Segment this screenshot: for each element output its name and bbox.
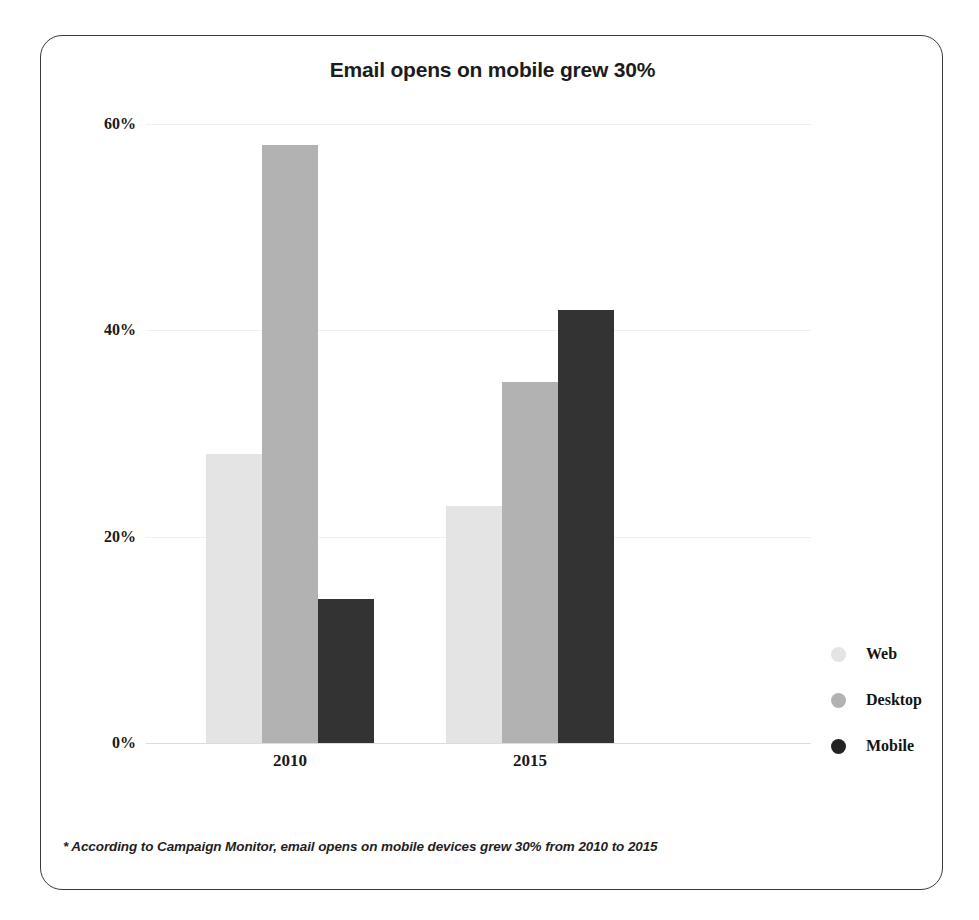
- x-tick-label-2015: 2015: [446, 751, 614, 771]
- bar-2015-desktop[interactable]: [502, 382, 558, 743]
- bar-2010-desktop[interactable]: [262, 145, 318, 743]
- circle-dot-icon: [831, 739, 846, 754]
- bar-2015-web[interactable]: [446, 506, 502, 743]
- bar-group-2010: [206, 124, 374, 743]
- legend-label: Mobile: [866, 737, 914, 755]
- legend-item-web[interactable]: Web: [831, 631, 961, 677]
- legend-item-mobile[interactable]: Mobile: [831, 723, 961, 769]
- plot-area: 0%20%40%60% 20102015: [146, 124, 811, 743]
- y-tick-label: 40%: [74, 321, 136, 339]
- chart-card: Email opens on mobile grew 30% 0%20%40%6…: [40, 35, 943, 890]
- bar-2010-web[interactable]: [206, 454, 262, 743]
- chart-page: Email opens on mobile grew 30% 0%20%40%6…: [0, 0, 979, 920]
- y-tick-label: 20%: [74, 528, 136, 546]
- bar-2010-mobile[interactable]: [318, 599, 374, 743]
- legend-label: Desktop: [866, 691, 922, 709]
- bar-2015-mobile[interactable]: [558, 310, 614, 743]
- y-tick-label: 0%: [74, 734, 136, 752]
- chart-footnote: * According to Campaign Monitor, email o…: [63, 839, 658, 854]
- circle-dot-icon: [831, 647, 846, 662]
- x-tick-label-2010: 2010: [206, 751, 374, 771]
- chart-legend: WebDesktopMobile: [831, 631, 961, 769]
- bar-group-2015: [446, 124, 614, 743]
- legend-label: Web: [866, 645, 897, 663]
- legend-item-desktop[interactable]: Desktop: [831, 677, 961, 723]
- y-tick-label: 60%: [74, 115, 136, 133]
- gridline-0: [146, 743, 811, 744]
- circle-dot-icon: [831, 693, 846, 708]
- chart-title: Email opens on mobile grew 30%: [41, 58, 944, 82]
